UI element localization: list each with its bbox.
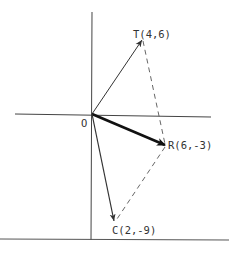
point-label-t: T(4,6) <box>133 28 171 40</box>
dashed-segment-r-c <box>117 147 165 219</box>
vector-o-r <box>92 114 165 145</box>
point-label-r: R(6,-3) <box>168 139 212 151</box>
x-axis <box>15 114 211 117</box>
point-label-c: C(2,-9) <box>112 224 156 236</box>
origin-label: O <box>81 117 87 129</box>
bottom-rule <box>0 239 229 240</box>
y-axis <box>91 12 92 240</box>
dashed-segment-t-r <box>143 41 165 144</box>
vector-o-t <box>92 40 142 114</box>
vector-o-c <box>92 114 114 221</box>
vector-diagram: O T(4,6) R(6,-3) C(2,-9) <box>0 0 229 255</box>
